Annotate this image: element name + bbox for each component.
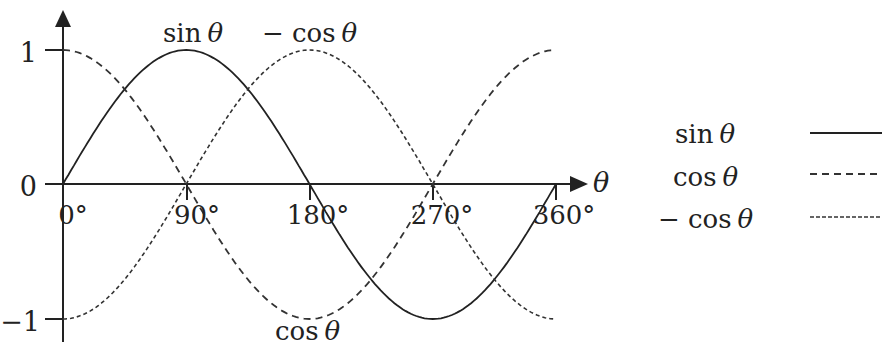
x-axis-arrow-icon (570, 176, 588, 192)
legend-label-sin: sinθ (675, 119, 735, 149)
y-label-neg1: −1 (0, 306, 40, 337)
annotation-neg-cos: − cosθ (262, 18, 358, 48)
x-label-90: 90° (174, 200, 220, 230)
x-label-180: 180° (287, 200, 350, 230)
x-label-270: 270° (411, 200, 474, 230)
annotation-sin: sinθ (163, 18, 223, 48)
annotation-cos: cosθ (275, 316, 341, 346)
y-axis-arrow-icon (55, 10, 71, 27)
x-label-0: 0° (58, 200, 88, 230)
x-label-360: 360° (533, 200, 596, 230)
legend: sinθ cosθ − cosθ (658, 119, 882, 234)
y-label-0: 0 (20, 171, 37, 202)
x-axis-label: θ (593, 167, 609, 198)
legend-label-cos: cosθ (673, 162, 739, 192)
legend-label-neg-cos: − cosθ (658, 204, 754, 234)
trig-chart: 1 0 −1 0° 90° 180° 270° 360° θ sinθ − co… (0, 0, 894, 347)
y-label-1: 1 (20, 37, 37, 68)
